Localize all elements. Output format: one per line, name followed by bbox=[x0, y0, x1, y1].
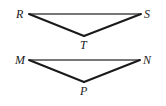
edge-TS bbox=[84, 14, 141, 36]
edge-MP bbox=[29, 60, 84, 82]
geometry-figure: R S T M N P bbox=[0, 0, 166, 106]
vertex-label-T: T bbox=[80, 39, 87, 51]
vertex-label-R: R bbox=[16, 8, 23, 20]
edge-RT bbox=[29, 14, 84, 36]
vertex-label-N: N bbox=[143, 54, 151, 66]
vertex-label-P: P bbox=[80, 85, 87, 97]
triangle-rst bbox=[29, 14, 141, 36]
triangle-mnp bbox=[29, 60, 140, 82]
edge-PN bbox=[84, 60, 140, 82]
vertex-label-M: M bbox=[15, 54, 25, 66]
vertex-label-S: S bbox=[144, 8, 150, 20]
